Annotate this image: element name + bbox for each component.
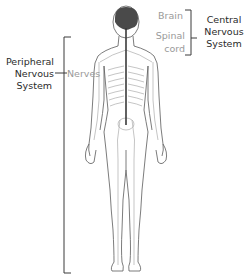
central-label-line1: Central [198,14,250,26]
peripheral-label-line1: Peripheral [0,56,54,68]
peripheral-label-line2: Nervous [0,68,54,80]
peripheral-label-line3: System [0,80,52,92]
central-bracket [185,10,197,55]
brain-label: Brain [150,10,183,22]
cord-label: cord [150,43,185,55]
central-label-line2: Nervous [198,26,250,38]
spinal-label: Spinal [150,30,185,42]
nerves-label: Nerves [67,68,100,80]
central-label-line3: System [198,38,250,50]
brain-shape [115,7,138,30]
